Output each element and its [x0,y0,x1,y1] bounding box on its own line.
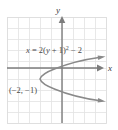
equation-mid: + 1) [50,45,66,55]
equation-annotation: x = 2(y + 1)2 − 2 [25,45,82,55]
equation-eq: = 2( [30,45,46,55]
parabola-figure: y x x = 2(y + 1)2 − 2 (−2, −1) [0,0,118,130]
graph-canvas: y x x = 2(y + 1)2 − 2 (−2, −1) [0,0,118,130]
x-axis-label: x [107,63,112,73]
equation-tail: − 2 [69,45,82,55]
vertex-annotation: (−2, −1) [9,85,37,95]
y-axis-label: y [55,5,60,15]
